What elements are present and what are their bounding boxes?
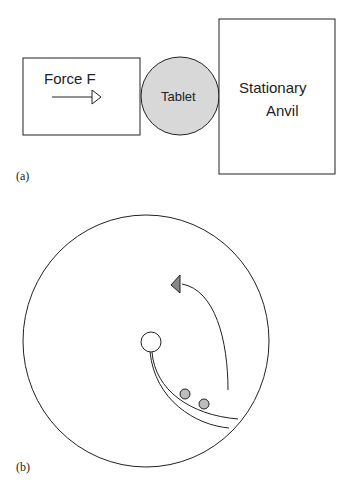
tablet-label: Tablet — [161, 89, 196, 104]
panel-b: (b) — [16, 215, 269, 474]
particle-2 — [199, 399, 209, 409]
panel-a-label: (a) — [16, 169, 29, 183]
center-hub — [141, 332, 161, 352]
panel-b-label: (b) — [16, 460, 30, 474]
anvil-label-line2: Anvil — [266, 102, 299, 119]
force-label: Force F — [44, 70, 96, 87]
stationary-anvil — [219, 19, 335, 174]
particle-1 — [180, 389, 190, 399]
panel-a: Force F Tablet Stationary Anvil (a) — [16, 19, 335, 183]
anvil-label-line1: Stationary — [239, 79, 307, 96]
figure: Force F Tablet Stationary Anvil (a) (b) — [0, 0, 350, 490]
